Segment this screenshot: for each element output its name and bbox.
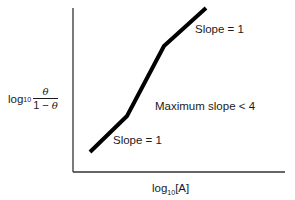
y-label-sub: 10 — [23, 96, 31, 103]
annotation-max-slope: Maximum slope < 4 — [155, 100, 255, 112]
x-label-log: log — [152, 182, 167, 194]
x-axis-label: log10[A] — [152, 182, 189, 196]
annotation-upper-slope: Slope = 1 — [195, 23, 244, 35]
y-label-den-prefix: 1 − — [33, 99, 52, 111]
y-label-denominator: 1 − θ — [33, 99, 58, 112]
x-label-arg: [A] — [175, 182, 189, 194]
y-label-numerator: θ — [42, 86, 48, 98]
y-label-fraction: θ 1 − θ — [33, 86, 58, 112]
y-label-den-var: θ — [52, 100, 58, 111]
x-label-sub: 10 — [167, 189, 175, 196]
annotation-lower-slope: Slope = 1 — [113, 134, 162, 146]
y-axis-label: log10 θ 1 − θ — [8, 86, 58, 112]
y-label-log: log — [8, 93, 23, 105]
hill-plot-line — [90, 8, 206, 152]
